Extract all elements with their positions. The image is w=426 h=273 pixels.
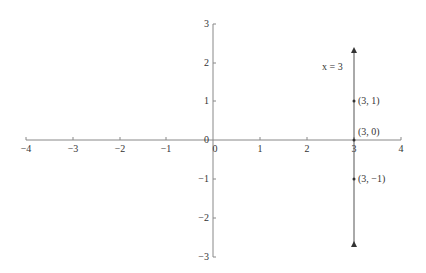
svg-text:−1: −1 [161, 143, 172, 154]
line-label: x = 3 [322, 61, 343, 72]
point-3-0 [353, 139, 356, 142]
coordinate-plane: −4 −3 −2 −1 0 1 2 3 4 3 2 1 0 −1 −2 −3 (… [0, 0, 426, 273]
point-label-3-neg1: (3, −1) [358, 173, 385, 185]
svg-text:4: 4 [399, 143, 404, 154]
svg-text:0: 0 [213, 143, 218, 154]
svg-text:3: 3 [204, 18, 209, 29]
svg-text:2: 2 [204, 57, 209, 68]
svg-text:−2: −2 [115, 143, 126, 154]
svg-text:1: 1 [204, 95, 209, 106]
svg-text:0: 0 [204, 134, 209, 145]
point-3-1 [353, 100, 356, 103]
svg-text:1: 1 [258, 143, 263, 154]
svg-text:−2: −2 [198, 212, 209, 223]
point-label-3-1: (3, 1) [358, 95, 380, 107]
point-3-neg1 [353, 178, 356, 181]
point-label-3-0: (3, 0) [358, 126, 380, 138]
x-tick-labels: −4 −3 −2 −1 0 1 2 3 4 [21, 143, 404, 154]
svg-text:2: 2 [305, 143, 310, 154]
svg-text:−3: −3 [68, 143, 79, 154]
svg-text:−4: −4 [21, 143, 32, 154]
svg-text:−1: −1 [198, 173, 209, 184]
svg-text:−3: −3 [198, 251, 209, 262]
